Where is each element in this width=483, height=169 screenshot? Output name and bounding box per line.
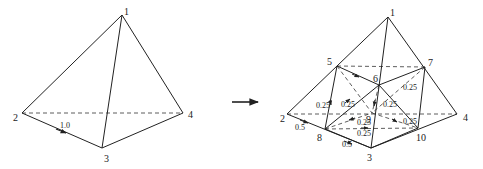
vertex-label-1: 1 — [390, 7, 395, 18]
vertex-label-2: 2 — [13, 112, 18, 123]
edge-1-4 — [388, 17, 457, 114]
weight-label: 0.5 — [342, 140, 352, 149]
weight-label: 0.25 — [357, 129, 371, 138]
refined-tetrahedron: 123456789100.50.50.250.250.250.250.250.2… — [280, 7, 468, 163]
edge-6-7 — [379, 67, 425, 85]
flow-arrow-icon — [374, 100, 375, 106]
edge-3-4 — [102, 113, 183, 148]
vertex-label-4: 4 — [188, 109, 193, 120]
edge-2-3 — [22, 113, 102, 148]
vertex-label-4: 4 — [463, 112, 468, 123]
vertex-label-3: 3 — [104, 153, 109, 164]
edge-10-3 — [371, 128, 418, 148]
weight-label: 0.25 — [341, 100, 355, 109]
vertex-label-5: 5 — [327, 56, 332, 67]
vertex-label-6: 6 — [373, 73, 378, 84]
weight-label: 0.25 — [357, 118, 371, 127]
weight-label: 0.25 — [383, 100, 397, 109]
hidden-edge-8-10 — [325, 128, 418, 129]
flow-arrow-icon — [392, 119, 397, 122]
tetrahedron-refinement-diagram: 12341.0 123456789100.50.50.250.250.250.2… — [0, 0, 483, 169]
weight-label: 1.0 — [60, 121, 70, 130]
hidden-edge-6-9 — [372, 85, 379, 113]
edge-7-10 — [418, 67, 425, 128]
vertex-label-3: 3 — [367, 152, 372, 163]
edge-1-4 — [122, 15, 183, 113]
vertex-label-7: 7 — [428, 57, 433, 68]
edge-1-3 — [102, 15, 122, 148]
vertex-label-10: 10 — [416, 132, 426, 143]
vertex-label-8: 8 — [317, 132, 322, 143]
weight-label: 0.5 — [295, 123, 305, 132]
vertex-label-1: 1 — [124, 6, 129, 17]
weight-label: 0.25 — [403, 83, 417, 92]
hidden-edge-5-7 — [337, 66, 425, 67]
edge-1-2 — [22, 15, 122, 113]
weight-label: 0.25 — [316, 101, 330, 110]
vertex-label-2: 2 — [280, 113, 285, 124]
original-tetrahedron: 12341.0 — [13, 6, 193, 164]
weight-label: 0.25 — [403, 117, 417, 126]
edge-1-2 — [287, 17, 388, 114]
